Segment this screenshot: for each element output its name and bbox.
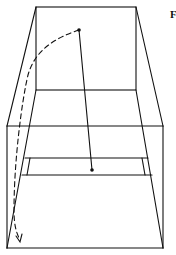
top-dot [77, 28, 81, 32]
pendulum-string [79, 30, 92, 170]
plank-right-tab [142, 158, 145, 175]
bottom-dot [90, 168, 94, 172]
right-upper-edge [136, 7, 163, 126]
arrow-head-icon [16, 234, 22, 242]
trajectory-curve [14, 30, 79, 240]
room-perspective-diagram [0, 0, 176, 255]
figure-label: F [170, 9, 176, 20]
back-wall [36, 7, 136, 90]
right-floor-edge [136, 90, 163, 248]
plank-left-tab [27, 158, 30, 175]
